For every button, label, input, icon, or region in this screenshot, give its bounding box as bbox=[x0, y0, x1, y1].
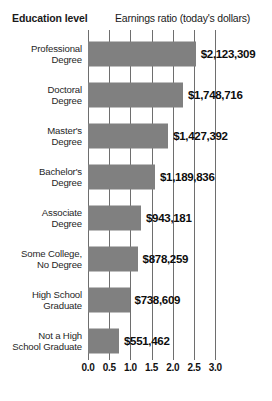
category-label: Bachelor'sDegree bbox=[4, 165, 82, 188]
category-label: ProfessionalDegree bbox=[4, 42, 82, 65]
x-tick-label: 2.0 bbox=[166, 362, 179, 373]
bar-row: Bachelor'sDegree$1,189,836 bbox=[0, 156, 272, 197]
x-axis-tick-labels: 0.00.51.01.52.02.53.0 bbox=[0, 362, 272, 382]
bar bbox=[88, 41, 196, 66]
category-label-line2: Degree bbox=[4, 95, 82, 106]
bar-row: High SchoolGraduate$738,609 bbox=[0, 279, 272, 320]
bar bbox=[88, 287, 130, 312]
bar-row: Some College,No Degree$878,259 bbox=[0, 238, 272, 279]
bar-value-label: $878,259 bbox=[143, 253, 189, 265]
bar-row: Not a HighSchool Graduate$551,462 bbox=[0, 320, 272, 361]
earnings-ratio-header: Earnings ratio (today's dollars) bbox=[115, 12, 250, 24]
bar-row: AssociateDegree$943,181 bbox=[0, 197, 272, 238]
category-label-line1: Master's bbox=[4, 124, 82, 135]
earnings-ratio-chart: Education level Earnings ratio (today's … bbox=[0, 0, 272, 401]
bar-value-label: $1,189,836 bbox=[160, 171, 215, 183]
bar bbox=[88, 164, 155, 189]
category-label-line2: Degree bbox=[4, 177, 82, 188]
category-label-line2: Degree bbox=[4, 136, 82, 147]
bar-row: ProfessionalDegree$2,123,309 bbox=[0, 33, 272, 74]
category-label-line2: Degree bbox=[4, 54, 82, 65]
chart-header: Education level Earnings ratio (today's … bbox=[0, 12, 272, 28]
category-label-line2: School Graduate bbox=[4, 341, 82, 352]
category-label: DoctoralDegree bbox=[4, 83, 82, 106]
bar-value-label: $2,123,309 bbox=[201, 48, 256, 60]
category-label-line1: Some College, bbox=[4, 247, 82, 258]
bar bbox=[88, 123, 168, 148]
x-tick-label: 3.0 bbox=[209, 362, 222, 373]
bar bbox=[88, 246, 138, 271]
x-tick-label: 1.5 bbox=[145, 362, 158, 373]
category-label-line1: Not a High bbox=[4, 329, 82, 340]
bar-rows: ProfessionalDegree$2,123,309DoctoralDegr… bbox=[0, 30, 272, 360]
category-label: Not a HighSchool Graduate bbox=[4, 329, 82, 352]
category-label-line2: Graduate bbox=[4, 300, 82, 311]
bar bbox=[88, 205, 141, 230]
category-label-line1: Doctoral bbox=[4, 83, 82, 94]
education-level-header: Education level bbox=[12, 12, 88, 24]
bar-value-label: $551,462 bbox=[124, 335, 170, 347]
bar-value-label: $943,181 bbox=[146, 212, 192, 224]
category-label: High SchoolGraduate bbox=[4, 288, 82, 311]
category-label-line1: High School bbox=[4, 288, 82, 299]
bar-row: Master'sDegree$1,427,392 bbox=[0, 115, 272, 156]
category-label-line1: Bachelor's bbox=[4, 165, 82, 176]
plot-area: ProfessionalDegree$2,123,309DoctoralDegr… bbox=[0, 30, 272, 360]
bar-value-label: $1,427,392 bbox=[173, 130, 228, 142]
category-label: AssociateDegree bbox=[4, 206, 82, 229]
x-tick-label: 0.0 bbox=[81, 362, 94, 373]
x-tick-label: 1.0 bbox=[124, 362, 137, 373]
category-label: Master'sDegree bbox=[4, 124, 82, 147]
bar bbox=[88, 82, 183, 107]
bar-row: DoctoralDegree$1,748,716 bbox=[0, 74, 272, 115]
bar bbox=[88, 328, 119, 353]
category-label-line2: No Degree bbox=[4, 259, 82, 270]
category-label-line1: Professional bbox=[4, 42, 82, 53]
bar-value-label: $738,609 bbox=[135, 294, 181, 306]
x-tick-label: 2.5 bbox=[187, 362, 200, 373]
category-label-line2: Degree bbox=[4, 218, 82, 229]
category-label-line1: Associate bbox=[4, 206, 82, 217]
bar-value-label: $1,748,716 bbox=[188, 89, 243, 101]
x-tick-label: 0.5 bbox=[103, 362, 116, 373]
category-label: Some College,No Degree bbox=[4, 247, 82, 270]
